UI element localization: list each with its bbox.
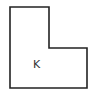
diagram-canvas: K [0, 0, 95, 92]
l-shaped-polygon [10, 7, 87, 88]
shape-label: K [33, 58, 41, 71]
